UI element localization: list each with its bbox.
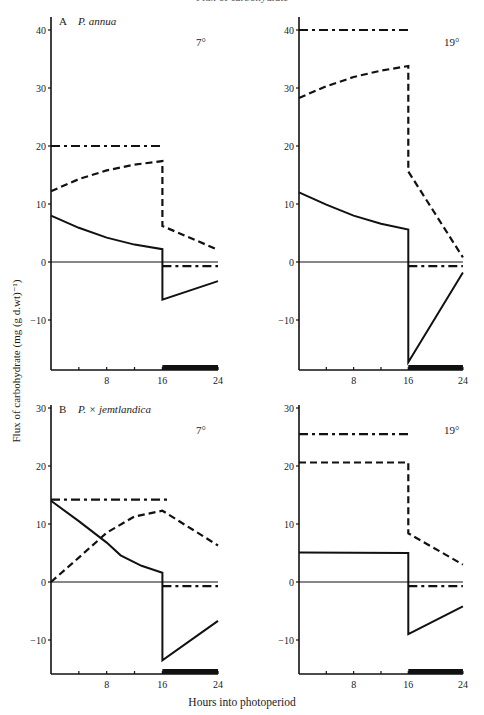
series-solid <box>51 216 218 300</box>
y-tick-label: 0 <box>41 577 46 588</box>
temperature-label: 7° <box>196 36 206 48</box>
y-tick-label: 20 <box>284 141 294 152</box>
y-tick-label: 20 <box>36 461 46 472</box>
species-label: P. annua <box>77 15 117 27</box>
x-tick-label: 16 <box>403 375 413 386</box>
x-tick-label: 8 <box>104 375 109 386</box>
y-tick-label: −10 <box>278 315 294 326</box>
y-tick-label: 30 <box>284 403 294 414</box>
x-tick-label: 24 <box>213 679 223 690</box>
y-tick-label: 30 <box>36 83 46 94</box>
x-tick-label: 16 <box>157 375 167 386</box>
y-tick-label: 30 <box>284 83 294 94</box>
series-dashed <box>299 66 463 257</box>
x-tick-label: 8 <box>104 679 109 690</box>
y-tick-label: 40 <box>36 25 46 36</box>
y-tick-label: 10 <box>36 199 46 210</box>
x-tick-label: 24 <box>458 375 468 386</box>
temperature-label: 7° <box>196 424 206 436</box>
y-tick-label: 10 <box>284 199 294 210</box>
x-axis-label: Hours into photoperiod <box>0 696 484 708</box>
y-tick-label: −10 <box>30 635 46 646</box>
x-tick-label: 8 <box>351 375 356 386</box>
series-solid <box>299 552 463 634</box>
temperature-label: 19° <box>444 36 459 48</box>
y-tick-label: 40 <box>284 25 294 36</box>
y-tick-label: 10 <box>284 519 294 530</box>
y-tick-label: 30 <box>36 403 46 414</box>
chart-panel-B-19: 3020100−108162419° <box>278 403 468 691</box>
x-tick-label: 8 <box>351 679 356 690</box>
y-tick-label: 0 <box>289 577 294 588</box>
x-tick-label: 24 <box>458 679 468 690</box>
series-dashed <box>51 161 218 250</box>
temperature-label: 19° <box>444 424 459 436</box>
panel-letter: B <box>59 403 66 415</box>
x-tick-label: 16 <box>403 679 413 690</box>
x-tick-label: 16 <box>157 679 167 690</box>
y-tick-label: −10 <box>30 315 46 326</box>
y-tick-label: 20 <box>284 461 294 472</box>
y-tick-label: −10 <box>278 635 294 646</box>
series-dashed <box>299 463 463 565</box>
chart-panel-A-19: 403020100−108162419° <box>278 17 468 386</box>
y-tick-label: 20 <box>36 141 46 152</box>
species-label: P. × jemtlandica <box>77 403 151 415</box>
y-tick-label: 0 <box>41 257 46 268</box>
y-tick-label: 0 <box>289 257 294 268</box>
chart-panel-B-7: 3020100−1081624BP. × jemtlandica7° <box>30 403 223 691</box>
y-axis-label: Flux of carbohydrate (mg (g d.wt)⁻¹) <box>10 279 23 442</box>
panel-letter: A <box>59 15 67 27</box>
chart-panel-A-7: 403020100−1081624AP. annua7° <box>30 15 223 386</box>
x-tick-label: 24 <box>213 375 223 386</box>
series-solid <box>51 501 218 661</box>
series-dashed <box>51 511 218 582</box>
figure: 403020100−1081624AP. annua7°403020100−10… <box>0 0 484 715</box>
y-tick-label: 10 <box>36 519 46 530</box>
